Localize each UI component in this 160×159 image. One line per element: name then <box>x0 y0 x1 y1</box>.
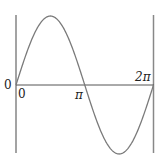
x-zero-label: 0 <box>18 87 26 101</box>
sine-diagram: 0 0 π 2π <box>0 0 160 159</box>
x-two-pi-label: 2π <box>134 70 152 84</box>
x-pi-label: π <box>74 88 84 102</box>
y-origin-label: 0 <box>4 78 12 92</box>
